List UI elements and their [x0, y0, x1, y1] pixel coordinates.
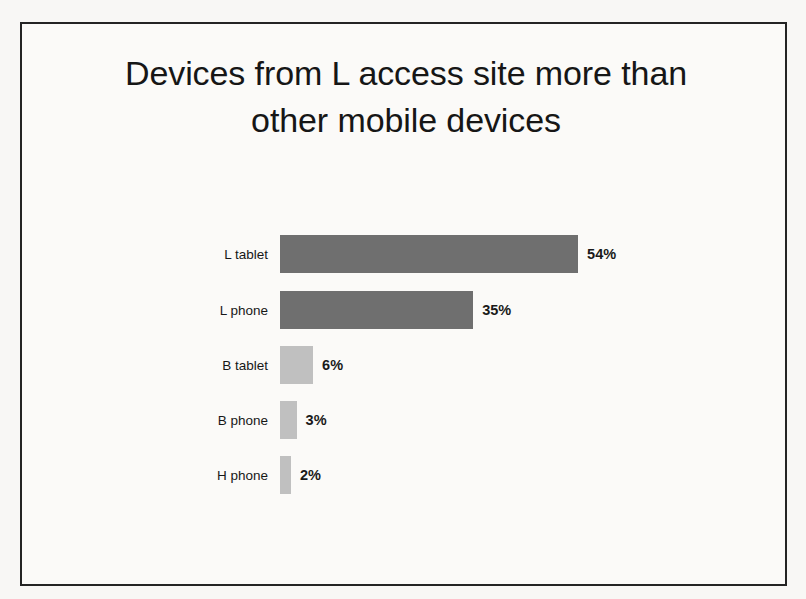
bar-value-label: 6%: [313, 357, 343, 373]
bar-wrapper: 6%: [280, 346, 343, 384]
bar-value-label: 54%: [578, 246, 616, 262]
bar-value: [280, 235, 578, 273]
bar-wrapper: 3%: [280, 401, 327, 439]
chart-title-line-2: other mobile devices: [56, 97, 756, 144]
slide-canvas: Devices from L access site more than oth…: [0, 0, 806, 599]
bar-value: [280, 401, 297, 439]
bar-value: [280, 456, 291, 494]
slide-frame: Devices from L access site more than oth…: [20, 22, 787, 586]
bar-row: L phone 35%: [172, 291, 732, 329]
category-label: B phone: [172, 413, 280, 428]
bar-chart-plot-area: L tablet 54% L phone 35% B tablet 6%: [172, 210, 732, 510]
bar-row: B tablet 6%: [172, 346, 732, 384]
bar-value-label: 35%: [473, 302, 511, 318]
chart-title-line-1: Devices from L access site more than: [56, 50, 756, 97]
bar-row: B phone 3%: [172, 401, 732, 439]
bar-wrapper: 35%: [280, 291, 511, 329]
category-label: H phone: [172, 468, 280, 483]
bar-value-label: 3%: [297, 412, 327, 428]
category-label: L phone: [172, 303, 280, 318]
bar-row: L tablet 54%: [172, 235, 732, 273]
category-label: B tablet: [172, 358, 280, 373]
chart-title: Devices from L access site more than oth…: [56, 50, 756, 144]
bar-row: H phone 2%: [172, 456, 732, 494]
bar-value: [280, 346, 313, 384]
bar-value: [280, 291, 473, 329]
bar-wrapper: 2%: [280, 456, 321, 494]
bar-wrapper: 54%: [280, 235, 616, 273]
bar-value-label: 2%: [291, 467, 321, 483]
category-label: L tablet: [172, 247, 280, 262]
